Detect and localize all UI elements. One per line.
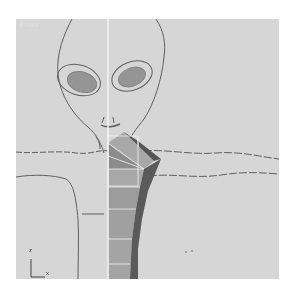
front-viewport[interactable]: Front	[16, 19, 279, 279]
axis-gizmo	[31, 259, 45, 277]
viewport-canvas[interactable]	[16, 19, 279, 279]
x-axis-label: x	[46, 270, 49, 276]
body-mesh[interactable]	[108, 132, 161, 279]
z-axis-label: z	[29, 247, 32, 253]
